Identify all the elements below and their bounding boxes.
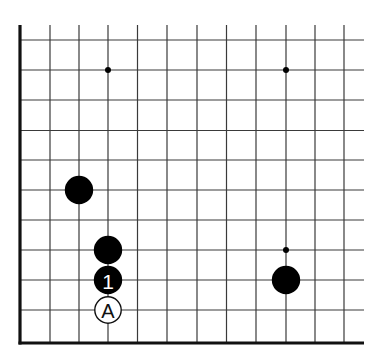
move-number-label: 1 (102, 270, 114, 293)
stones: 1 (65, 176, 300, 294)
star-point-icon (105, 67, 111, 73)
markers: A (95, 297, 121, 323)
letter-marker-label: A (101, 300, 115, 322)
star-point-icon (283, 67, 289, 73)
go-board-diagram: 1 A (0, 0, 386, 363)
black-stone (65, 176, 93, 204)
black-stone (272, 266, 300, 294)
black-stone (94, 236, 122, 264)
star-point-icon (283, 247, 289, 253)
